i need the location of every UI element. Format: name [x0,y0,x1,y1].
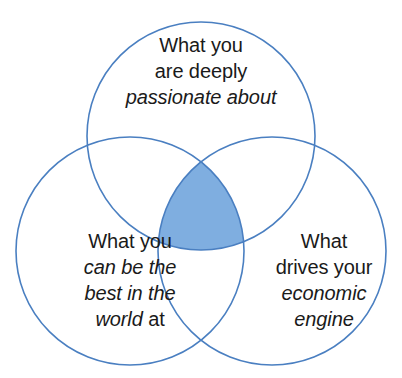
label-passion-line-3: passionate about [0,84,402,110]
label-economic-line-4: engine [246,306,402,332]
venn-diagram: What you are deeply passionate about Wha… [0,0,402,378]
label-best-line-4-italic: world [95,308,142,330]
label-best-line-4-roman: at [143,308,165,330]
label-best-line-1: What you [4,228,256,254]
label-best-line-3: best in the [4,280,256,306]
label-economic-line-3: economic [246,280,402,306]
label-passion-line-2: are deeply [0,58,402,84]
label-best-in-the-world: What you can be the best in the world at [4,228,256,332]
label-best-line-2: can be the [4,254,256,280]
label-economic-engine: What drives your economic engine [246,228,402,332]
label-economic-line-2: drives your [246,254,402,280]
label-passionate-about: What you are deeply passionate about [0,32,402,110]
label-passion-line-1: What you [0,32,402,58]
label-best-line-4: world at [4,306,256,332]
label-economic-line-1: What [246,228,402,254]
